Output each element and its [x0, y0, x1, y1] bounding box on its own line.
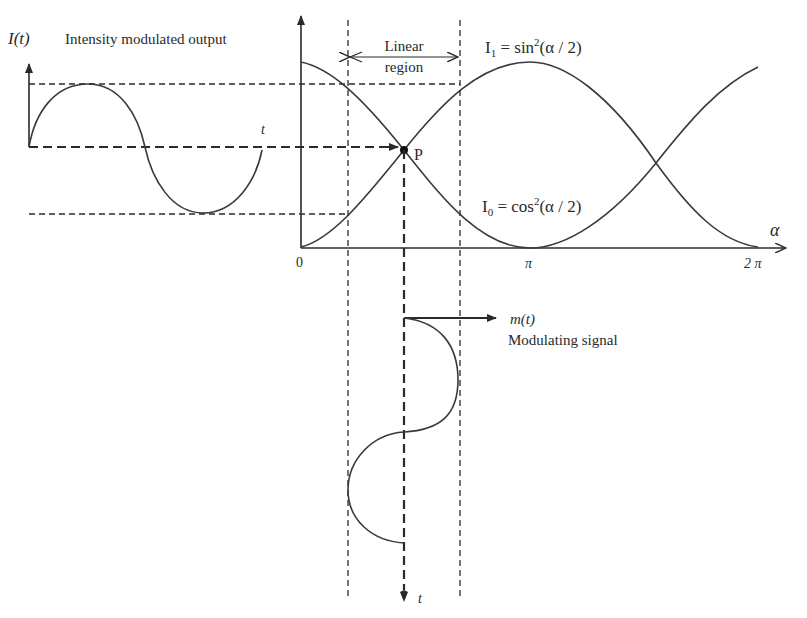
tick-label-pi: π: [525, 256, 533, 271]
output-sine-wave: [29, 84, 262, 213]
output-title-label: Intensity modulated output: [65, 31, 227, 47]
modulating-signal-plot: [348, 150, 496, 602]
i1-sin-squared-curve: [301, 62, 758, 247]
modulating-axis-label: m(t): [510, 311, 535, 328]
output-time-label: t: [261, 122, 266, 137]
alpha-axis-label: α: [770, 220, 780, 240]
linear-region-label-line2: region: [385, 59, 424, 75]
output-axis-label: I(t): [7, 29, 30, 48]
tick-label-0: 0: [296, 255, 303, 270]
linear-region-label-line1: Linear: [384, 38, 423, 54]
modulating-caption: Modulating signal: [508, 332, 618, 348]
modulating-time-label: t: [418, 591, 423, 606]
i0-equation-label: I0 = cos2(α / 2): [482, 195, 581, 218]
operating-point-label: P: [414, 146, 423, 163]
modulation-diagram: I(t) Intensity modulated output t P Line…: [0, 0, 807, 618]
svg-text:I1 = sin2(α / 2): I1 = sin2(α / 2): [485, 36, 582, 59]
i1-equation-label: I1 = sin2(α / 2): [485, 36, 582, 59]
svg-text:I0 = cos2(α / 2): I0 = cos2(α / 2): [482, 195, 581, 218]
output-plot: [29, 64, 398, 213]
tick-label-2pi: 2 π: [744, 256, 763, 271]
time-axis-arrow-icon: [400, 590, 408, 602]
i0-cos-squared-curve: [301, 62, 758, 248]
